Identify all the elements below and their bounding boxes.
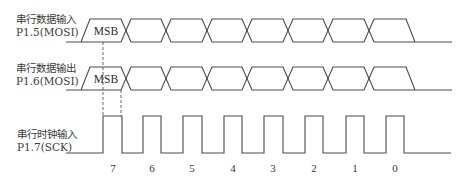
signal-row-mosi-out: 串行数据输出 P1.6(MOSI) MSB [16,62,452,90]
signal-label-line1: 串行数据输出 [16,62,76,74]
bit-label: 5 [189,162,195,174]
bit-label: 2 [311,162,317,174]
msb-cell-label: MSB [94,25,119,37]
signal-label-line2: P1.5(MOSI) [16,26,79,38]
signal-row-mosi-in: 串行数据输入 P1.5(MOSI) MSB [16,13,452,42]
data-waveform [66,19,452,42]
signal-label-line1: 串行时钟输入 [17,128,78,140]
bit-label: 3 [270,162,276,174]
bit-label: 6 [149,162,155,174]
spi-timing-diagram: 串行数据输入 P1.5(MOSI) MSB 串行数据输出 P1.6(MOSI) … [0,0,467,181]
clock-waveform [66,116,451,153]
signal-label-line2: P1.6(MOSI) [16,75,79,87]
bit-label: 0 [392,162,398,174]
data-waveform [66,67,452,90]
bit-label: 1 [352,162,358,174]
bit-label: 4 [230,162,236,174]
signal-row-sck: 串行时钟输入 P1.7(SCK) [17,116,451,153]
signal-label-line2: P1.7(SCK) [17,141,72,153]
bit-label: 7 [110,162,116,174]
bit-labels: 7 6 5 4 3 2 1 0 [110,162,398,174]
signal-label-line1: 串行数据输入 [16,13,77,25]
msb-cell-label: MSB [94,73,119,85]
